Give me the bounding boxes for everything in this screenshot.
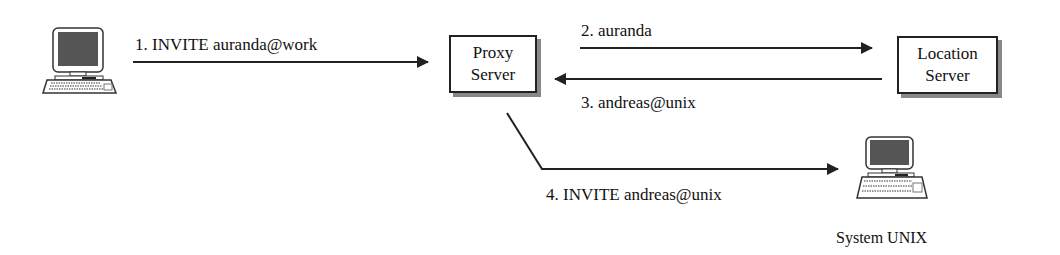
- location-server-node: Location Server: [897, 36, 998, 94]
- message-4-label: 4. INVITE andreas@unix: [546, 186, 722, 203]
- arrow-invite-4: [507, 113, 838, 169]
- proxy-label-line2: Server: [451, 64, 535, 86]
- message-3-label: 3. andreas@unix: [581, 94, 696, 111]
- location-label-line2: Server: [899, 65, 996, 87]
- proxy-server-node: Proxy Server: [449, 35, 537, 93]
- proxy-label-line1: Proxy: [451, 42, 535, 64]
- computer-icon: [43, 28, 116, 93]
- computer-icon: [857, 137, 927, 198]
- message-2-label: 2. auranda: [581, 22, 652, 39]
- message-1-label: 1. INVITE auranda@work: [135, 36, 317, 53]
- location-label-line1: Location: [899, 43, 996, 65]
- system-unix-label: System UNIX: [836, 230, 927, 246]
